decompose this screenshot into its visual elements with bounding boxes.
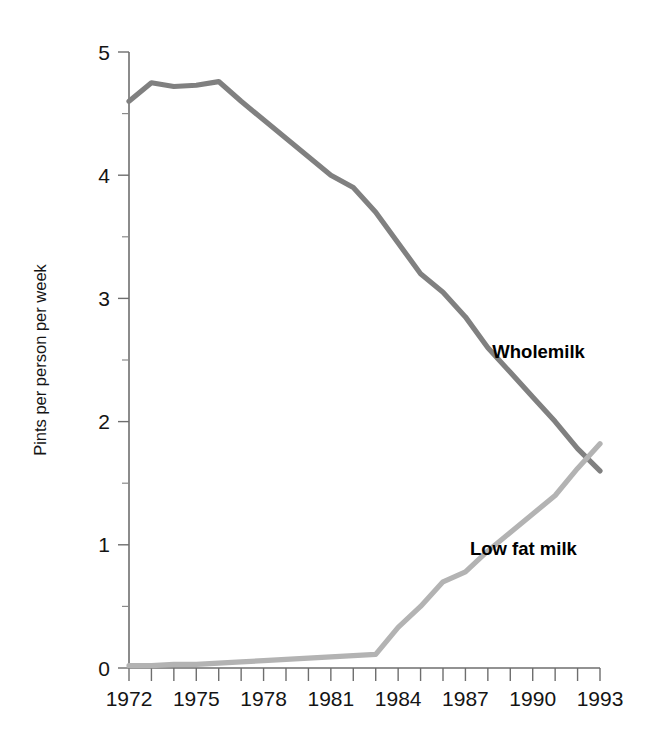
y-tick-label-4: 4: [98, 164, 110, 187]
x-tick-label-1972: 1972: [106, 687, 153, 710]
y-axis: 012345: [98, 41, 129, 680]
y-tick-label-0: 0: [98, 657, 110, 680]
x-tick-label-1981: 1981: [307, 687, 354, 710]
y-tick-label-5: 5: [98, 41, 110, 64]
x-tick-label-1993: 1993: [577, 687, 624, 710]
y-tick-label-1: 1: [98, 533, 110, 556]
x-tick-label-1990: 1990: [509, 687, 556, 710]
x-tick-label-1975: 1975: [173, 687, 220, 710]
chart-container: 012345 19721975197819811984198719901993 …: [0, 0, 654, 736]
y-tick-label-2: 2: [98, 410, 110, 433]
x-tick-label-1984: 1984: [375, 687, 422, 710]
x-tick-label-1978: 1978: [240, 687, 287, 710]
x-tick-label-1987: 1987: [442, 687, 489, 710]
x-axis: 19721975197819811984198719901993: [106, 668, 624, 710]
series-lines: [129, 82, 600, 666]
y-axis-title: Pints per person per week: [31, 263, 49, 455]
series-line-0: [129, 82, 600, 471]
series-label-0: Wholemilk: [492, 341, 585, 362]
y-tick-label-3: 3: [98, 287, 110, 310]
series-label-1: Low fat milk: [470, 538, 578, 559]
line-chart: 012345 19721975197819811984198719901993 …: [0, 0, 654, 736]
y-axis-title-text: Pints per person per week: [31, 263, 49, 455]
series-annotations: WholemilkLow fat milk: [470, 341, 586, 559]
